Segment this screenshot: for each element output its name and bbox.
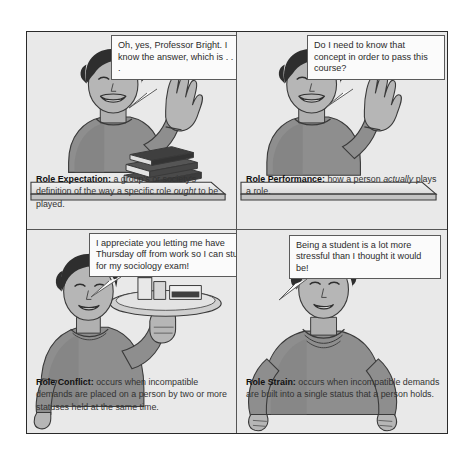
speech-tail-role-performance: [319, 88, 355, 110]
definition-part-1-role-performance: how a person: [325, 174, 383, 184]
caption-role-performance: Role Performance: how a person actually …: [246, 173, 440, 198]
speech-bubble-role-strain: Being a student is a lot more stressful …: [289, 235, 441, 280]
speech-tail-role-expectation: [123, 88, 159, 110]
caption-role-expectation: Role Expectation: a group's or society's…: [36, 173, 229, 210]
panel-role-performance: Do I need to know that concept in order …: [237, 32, 447, 230]
speech-bubble-role-expectation: Oh, yes, Professor Bright. I know the an…: [111, 35, 237, 80]
italic-emphasis-role-performance: actually: [383, 174, 413, 184]
term-role-expectation: Role Expectation:: [36, 174, 111, 184]
speech-tail-role-strain: [275, 278, 309, 302]
term-role-conflict: Role Conflict:: [36, 377, 94, 387]
term-role-strain: Role Strain:: [246, 377, 296, 387]
panel-role-expectation: Oh, yes, Professor Bright. I know the an…: [27, 32, 237, 230]
panel-role-strain: Being a student is a lot more stressful …: [237, 230, 447, 433]
role-concepts-figure: Oh, yes, Professor Bright. I know the an…: [26, 31, 448, 434]
term-role-performance: Role Performance:: [246, 174, 325, 184]
speech-bubble-role-performance: Do I need to know that concept in order …: [307, 35, 445, 80]
speech-tail-role-conflict: [87, 276, 123, 298]
panel-role-conflict: I appreciate you letting me have Thursda…: [27, 230, 237, 433]
italic-emphasis-role-expectation: ought: [174, 186, 196, 196]
caption-role-strain: Role Strain: occurs when incompatible de…: [246, 376, 440, 401]
caption-role-conflict: Role Conflict: occurs when incompatible …: [36, 376, 229, 413]
speech-bubble-role-conflict: I appreciate you letting me have Thursda…: [89, 233, 237, 278]
